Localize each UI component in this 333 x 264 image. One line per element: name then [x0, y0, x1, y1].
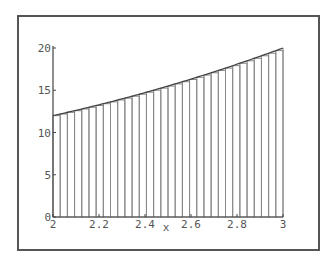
- rectangle: [53, 116, 60, 217]
- rectangle: [111, 102, 118, 217]
- rectangle: [226, 68, 233, 217]
- rectangle: [218, 70, 225, 217]
- rectangle: [139, 94, 146, 217]
- rectangle: [240, 63, 247, 217]
- rectangle: [276, 51, 283, 217]
- y-tick-label: 20: [38, 42, 51, 55]
- rectangle: [182, 82, 189, 217]
- rectangle: [118, 100, 125, 217]
- x-tick-label: 2.6: [181, 218, 201, 231]
- rectangle: [190, 80, 197, 217]
- rectangle: [75, 111, 82, 217]
- rectangles: [53, 48, 283, 217]
- rectangle: [82, 109, 89, 217]
- rectangle: [161, 88, 168, 217]
- rectangle: [154, 90, 161, 217]
- y-tick-label: 15: [38, 84, 51, 97]
- rectangle: [204, 75, 211, 217]
- rectangle: [197, 77, 204, 217]
- rectangle: [233, 66, 240, 217]
- rectangle: [254, 58, 261, 217]
- x-tick-label: 2.8: [227, 218, 247, 231]
- riemann-sum-chart: 05101520 22.22.42.62.83 x: [0, 0, 333, 264]
- rectangle: [269, 53, 276, 217]
- rectangle: [247, 61, 254, 217]
- x-axis-label: x: [163, 221, 170, 234]
- rectangle: [211, 73, 218, 217]
- y-tick-label: 5: [44, 169, 51, 182]
- rectangle: [168, 86, 175, 217]
- rectangle: [132, 96, 139, 217]
- rectangle: [103, 104, 110, 217]
- rectangle: [60, 114, 67, 217]
- rectangle: [175, 84, 182, 217]
- rectangle: [96, 105, 103, 217]
- x-tick-label: 2.4: [135, 218, 155, 231]
- rectangle: [261, 56, 268, 217]
- x-tick-label: 2.2: [89, 218, 109, 231]
- rectangle: [146, 92, 153, 217]
- y-tick-label: 10: [38, 127, 51, 140]
- rectangle: [125, 98, 132, 217]
- rectangle: [67, 112, 74, 217]
- x-tick-label: 3: [280, 218, 287, 231]
- x-tick-label: 2: [50, 218, 57, 231]
- rectangle: [89, 107, 96, 217]
